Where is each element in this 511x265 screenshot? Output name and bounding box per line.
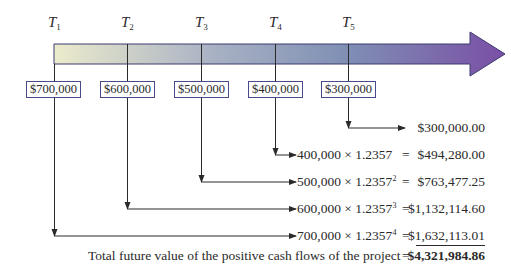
period-label-t3: T3 [195,14,208,32]
cash-flow-box-t1: $700,000 [26,81,81,98]
future-value-t3: $763,477.25 [375,174,485,190]
period-label-t1: T1 [48,14,61,32]
period-label-t2: T2 [121,14,134,32]
future-value-t4: $494,280.00 [375,147,485,163]
sum-rule [416,245,485,246]
future-value-t2: $1,132,114.60 [375,201,485,217]
total-label: Total future value of the positive cash … [88,248,400,264]
future-value-t5: $300,000.00 [375,120,485,136]
cash-flow-box-t2: $600,000 [100,81,155,98]
cash-flow-box-t3: $500,000 [174,81,229,98]
total-future-value: $4,321,984.86 [375,248,485,264]
timeline-arrow [54,32,505,76]
period-label-t4: T4 [269,14,282,32]
cash-flow-box-t4: $400,000 [248,81,303,98]
future-value-t1: $1,632,113.01 [375,228,485,244]
cash-flow-box-t5: $300,000 [321,81,376,98]
period-label-t5: T5 [342,14,355,32]
